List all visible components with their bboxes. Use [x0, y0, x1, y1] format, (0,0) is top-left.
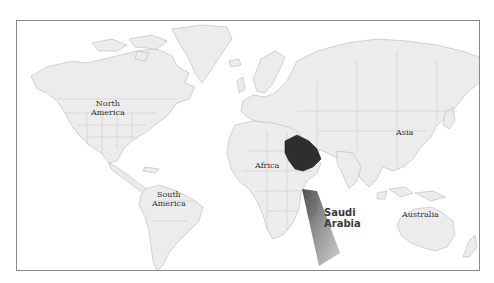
- label-south-america: South America: [152, 190, 186, 208]
- label-north-america-line2: America: [91, 108, 125, 117]
- label-asia-text: Asia: [396, 128, 413, 137]
- callout-saudi-arabia: Saudi Arabia: [324, 207, 361, 229]
- label-africa: Africa: [255, 161, 279, 170]
- label-south-america-line1: South: [152, 190, 186, 199]
- callout-line2: Arabia: [324, 218, 361, 229]
- central-america: [109, 163, 147, 193]
- label-australia: Australia: [402, 210, 439, 219]
- label-south-america-line2: America: [152, 199, 186, 208]
- map-frame: North America South America Africa Asia …: [16, 20, 480, 271]
- callout-line1: Saudi: [324, 207, 361, 218]
- new-zealand: [463, 235, 477, 257]
- label-australia-text: Australia: [402, 210, 439, 219]
- world-map: [17, 21, 480, 271]
- label-north-america-line1: North: [91, 99, 125, 108]
- label-north-america: North America: [91, 99, 125, 117]
- label-africa-text: Africa: [255, 161, 279, 170]
- label-asia: Asia: [396, 128, 413, 137]
